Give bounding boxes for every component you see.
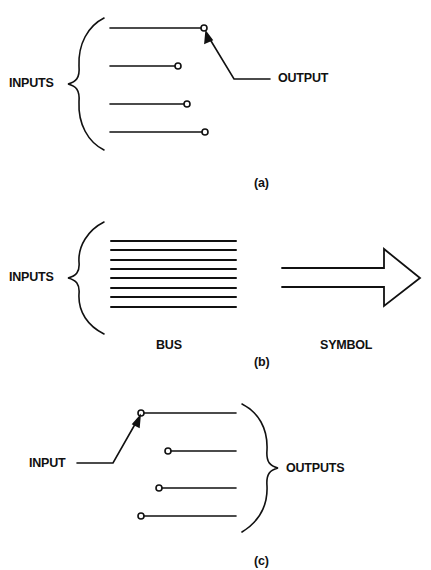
contact-1 — [201, 25, 207, 31]
contact-2 — [175, 63, 181, 69]
contact-c-1 — [138, 410, 144, 416]
contact-4 — [202, 129, 208, 135]
caption-a: (a) — [254, 176, 269, 190]
output-label-a: OUTPUT — [278, 71, 328, 85]
contact-c-2 — [165, 448, 171, 454]
bus-symbol-arrow-icon — [282, 249, 420, 306]
inputs-label-a: INPUTS — [9, 76, 54, 90]
brace-inputs-a — [68, 18, 104, 150]
caption-c: (c) — [254, 554, 269, 568]
bus-lines — [111, 241, 236, 307]
symbol-label: SYMBOL — [320, 338, 372, 352]
output-switch-arm — [208, 36, 270, 79]
contact-c-3 — [156, 485, 162, 491]
arrowhead-c-icon — [133, 416, 140, 427]
diagram-canvas — [0, 0, 431, 570]
contact-c-4 — [138, 513, 144, 519]
input-switch-arm — [77, 419, 138, 463]
inputs-label-b: INPUTS — [9, 270, 54, 284]
bus-label: BUS — [156, 338, 182, 352]
brace-inputs-b — [68, 222, 104, 334]
outputs-label-c: OUTPUTS — [286, 461, 344, 475]
input-label-c: INPUT — [29, 456, 66, 470]
contact-3 — [184, 101, 190, 107]
caption-b: (b) — [254, 355, 269, 369]
brace-outputs-c — [242, 404, 278, 532]
